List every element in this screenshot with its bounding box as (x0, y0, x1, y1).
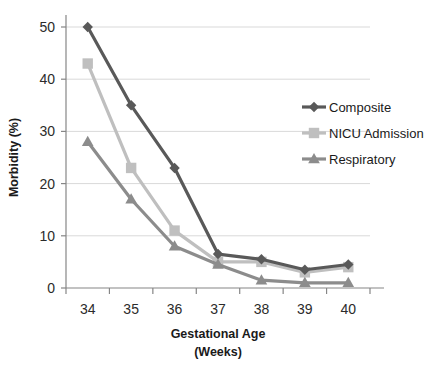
legend-label: Composite (329, 100, 391, 115)
y-tick-label: 10 (39, 228, 55, 244)
data-point-marker (83, 58, 93, 68)
x-tick-label: 36 (167, 301, 183, 317)
x-tick-label: 38 (254, 301, 270, 317)
data-point-marker (169, 225, 179, 235)
data-point-marker (126, 163, 136, 173)
morbidity-by-gestational-age-chart: 0102030405034353637383940Morbidity (%)Ge… (0, 0, 428, 367)
legend-marker (309, 128, 319, 138)
y-axis-title: Morbidity (%) (7, 118, 21, 197)
legend-item-composite: Composite (302, 100, 391, 115)
legend-item-nicu-admission: NICU Admission (302, 126, 424, 141)
x-axis-title-line2: (Weeks) (194, 345, 242, 359)
y-tick-label: 0 (47, 280, 55, 296)
chart-canvas: 0102030405034353637383940Morbidity (%)Ge… (0, 0, 428, 367)
y-tick-label: 50 (39, 19, 55, 35)
x-tick-label: 40 (340, 301, 356, 317)
y-tick-label: 30 (39, 123, 55, 139)
y-tick-label: 40 (39, 71, 55, 87)
legend: CompositeNICU AdmissionRespiratory (302, 100, 424, 167)
x-tick-label: 34 (80, 301, 96, 317)
x-tick-label: 35 (123, 301, 139, 317)
legend-label: Respiratory (329, 152, 396, 167)
data-point-marker (82, 136, 94, 146)
series-line (88, 27, 349, 270)
legend-label: NICU Admission (329, 126, 424, 141)
legend-marker (309, 102, 319, 112)
legend-item-respiratory: Respiratory (302, 152, 396, 167)
x-tick-label: 37 (210, 301, 226, 317)
y-tick-label: 20 (39, 176, 55, 192)
x-tick-label: 39 (297, 301, 313, 317)
x-axis-title-line1: Gestational Age (171, 327, 266, 341)
